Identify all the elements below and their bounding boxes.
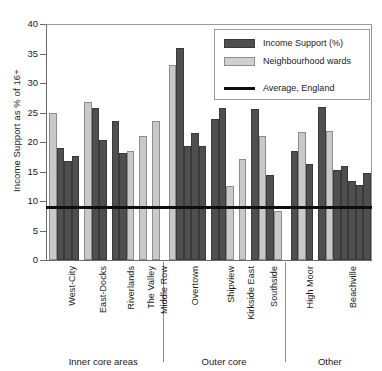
legend-swatch-neighbourhood-wards	[224, 57, 255, 66]
bar	[219, 108, 227, 260]
x-category-label: Middle Row	[159, 266, 169, 314]
bar	[239, 159, 247, 260]
group-divider	[285, 262, 286, 362]
bar	[49, 113, 57, 261]
bar	[333, 170, 341, 260]
x-group-label: Outer core	[164, 356, 284, 367]
y-tick-mark	[40, 142, 46, 143]
y-tick-label: 35	[16, 49, 38, 58]
x-category-label: West-City	[67, 266, 77, 306]
y-tick-mark	[40, 201, 46, 202]
y-tick-label: 30	[16, 78, 38, 87]
bar	[57, 148, 65, 260]
bar	[139, 136, 147, 260]
y-tick-mark	[40, 24, 46, 25]
y-tick-mark	[40, 54, 46, 55]
bar	[356, 185, 364, 260]
x-group-label: Inner core areas	[43, 356, 163, 367]
y-tick-label: 25	[16, 108, 38, 117]
y-tick-label: 10	[16, 196, 38, 205]
x-category-label: Shipview	[226, 266, 236, 303]
y-tick-mark	[40, 260, 46, 261]
y-tick-label: 15	[16, 167, 38, 176]
y-tick-mark	[40, 231, 46, 232]
bar	[259, 136, 267, 260]
bar	[169, 65, 177, 260]
legend-item-neighbourhood-wards: Neighbourhood wards	[224, 56, 351, 67]
legend-swatch-income-support	[224, 39, 255, 48]
x-axis-line	[46, 260, 372, 261]
average-england-line	[46, 206, 372, 209]
bar	[152, 121, 160, 260]
x-category-label: The Valley	[146, 266, 156, 309]
bar	[199, 146, 207, 260]
x-category-label: Overtown	[190, 266, 200, 305]
legend-swatch-average-england	[224, 87, 255, 90]
x-group-label: Other	[270, 356, 382, 367]
legend-label-income-support: Income Support (%)	[263, 38, 343, 49]
bar	[226, 186, 234, 260]
chart-legend: Income Support (%) Neighbourhood wards A…	[214, 29, 370, 100]
bar	[318, 107, 326, 260]
bar	[211, 119, 219, 260]
x-category-label: Southside	[269, 266, 279, 307]
bar	[306, 164, 314, 260]
bar	[92, 108, 100, 260]
bar	[326, 131, 334, 260]
y-tick-label: 5	[16, 226, 38, 235]
legend-label-neighbourhood-wards: Neighbourhood wards	[263, 56, 351, 67]
y-tick-label: 40	[16, 19, 38, 28]
bar	[84, 102, 92, 260]
y-tick-label: 20	[16, 137, 38, 146]
y-tick-mark	[40, 83, 46, 84]
bar	[176, 48, 184, 260]
income-support-bar-chart: Income Support as % of 16+ 0510152025303…	[0, 0, 382, 371]
x-category-label: Riverlands	[126, 266, 136, 310]
legend-item-income-support: Income Support (%)	[224, 38, 343, 49]
y-tick-mark	[40, 172, 46, 173]
bar	[251, 109, 259, 260]
bar	[298, 132, 306, 260]
bar	[341, 166, 349, 260]
legend-label-average-england: Average, England	[263, 83, 334, 94]
bar	[184, 146, 192, 260]
bar	[112, 121, 120, 260]
bar	[363, 173, 371, 260]
x-category-label: High Moor	[305, 266, 315, 308]
x-category-label: East-Docks	[98, 266, 108, 313]
y-tick-label: 0	[16, 255, 38, 264]
x-category-label: Kirkside East	[246, 266, 256, 320]
y-tick-mark	[40, 113, 46, 114]
bar	[348, 181, 356, 260]
bar	[99, 140, 107, 260]
bar	[64, 161, 72, 260]
x-category-label: Beachville	[348, 266, 358, 308]
bar	[274, 211, 282, 260]
legend-item-average-england: Average, England	[224, 83, 334, 94]
bar	[266, 175, 274, 260]
bar	[191, 133, 199, 260]
